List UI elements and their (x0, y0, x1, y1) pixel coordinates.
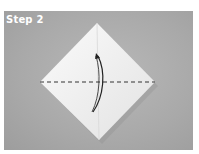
origami-diagram (0, 0, 199, 154)
